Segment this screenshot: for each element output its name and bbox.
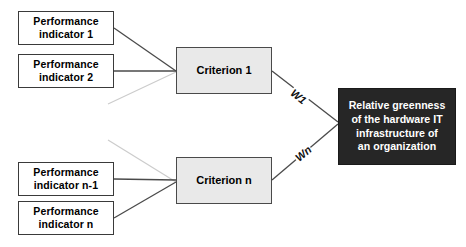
indicator-n-line2: indicator n [39, 218, 94, 230]
goal-line4: an organization [358, 140, 436, 152]
edge-faint-upper [108, 72, 176, 104]
node-performance-indicator-2[interactable]: Performance indicator 2 [18, 54, 114, 88]
diagram-canvas: Performance indicator 1 Performance indi… [0, 0, 466, 247]
goal-line3: infrastructure of [356, 127, 438, 139]
indicator-2-line1: Performance [33, 58, 98, 70]
edge-faint-lower [108, 140, 176, 182]
indicator-n-line1: Performance [33, 205, 98, 217]
edge-indicatorn1-to-criterionn [114, 179, 176, 180]
edge-indicatorn-to-criterionn [114, 182, 176, 218]
criterion-n-label: Criterion n [196, 174, 252, 188]
goal-line2: of the hardware IT [351, 113, 442, 125]
node-performance-indicator-1[interactable]: Performance indicator 1 [18, 11, 114, 45]
node-criterion-n[interactable]: Criterion n [176, 157, 272, 204]
indicator-n-minus-1-line1: Performance [33, 166, 98, 178]
indicator-n-minus-1-line2: indicator n-1 [34, 179, 98, 191]
indicator-2-line2: indicator 2 [39, 71, 93, 83]
indicator-1-line1: Performance [33, 15, 98, 27]
node-criterion-1[interactable]: Criterion 1 [176, 47, 272, 94]
indicator-1-line2: indicator 1 [39, 28, 93, 40]
node-performance-indicator-n[interactable]: Performance indicator n [18, 201, 114, 235]
goal-line1: Relative greenness [349, 99, 446, 111]
criterion-1-label: Criterion 1 [196, 64, 251, 78]
node-performance-indicator-n-minus-1[interactable]: Performance indicator n-1 [18, 162, 114, 196]
node-goal-relative-greenness[interactable]: Relative greenness of the hardware IT in… [338, 88, 456, 165]
edge-indicator1-to-criterion1 [114, 28, 176, 71]
